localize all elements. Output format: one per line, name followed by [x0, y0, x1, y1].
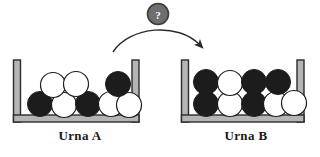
- urn-b-ball-row-top: [194, 70, 291, 96]
- urn-a-label: Urna A: [12, 128, 148, 144]
- urn-a-ball-row-bottom: [28, 92, 142, 118]
- ball-black: [194, 70, 219, 95]
- transfer-arrow: [113, 30, 200, 52]
- ball-black: [242, 92, 267, 117]
- ball-white: [41, 73, 66, 98]
- ball-black: [194, 92, 219, 117]
- urn-b-label: Urna B: [180, 128, 312, 144]
- ball-black: [266, 70, 291, 95]
- question-mark-icon: ?: [155, 9, 161, 21]
- urn-a-drawing: [12, 58, 148, 128]
- question-marker-circle: [148, 4, 169, 25]
- urn-b-drawing: [180, 58, 312, 128]
- ball-white: [218, 71, 243, 96]
- transfer-arrow-group: ?: [100, 2, 220, 58]
- urn-a: Urna A: [12, 58, 148, 157]
- ball-white: [64, 72, 89, 97]
- ball-white: [282, 91, 307, 116]
- ball-black: [242, 70, 267, 95]
- question-marker[interactable]: ?: [148, 4, 169, 25]
- diagram-canvas: Urna A: [0, 0, 320, 157]
- urn-b: Urna B: [180, 58, 312, 157]
- urn-b-ball-row-bottom: [194, 91, 307, 117]
- ball-black: [106, 72, 131, 97]
